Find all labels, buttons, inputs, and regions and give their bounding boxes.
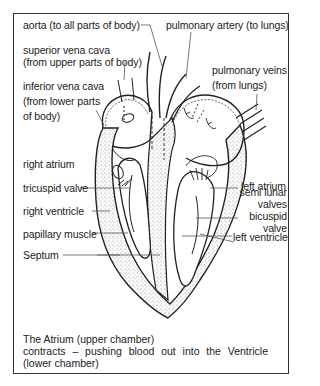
label-line: (from upper parts of body) (23, 56, 142, 68)
label-left-ventricle: left ventricle (233, 231, 288, 243)
label-tricuspid-valve: tricuspid valve (23, 182, 88, 194)
label-line: (from lower parts (23, 95, 104, 107)
superior-vena-cava (118, 78, 135, 124)
label-papillary-muscle: papillary muscle (23, 228, 97, 240)
label-line: valves (238, 198, 287, 210)
label-septum: Septum (23, 249, 59, 261)
label-line: superior vena cava (23, 44, 142, 56)
label-right-atrium: right atrium (23, 158, 74, 170)
label-line: (from lungs) (212, 79, 287, 91)
label-superior-vena-cava: superior vena cava (from upper parts of … (23, 44, 142, 68)
label-line: bicuspid (238, 210, 287, 222)
caption-line-2: contracts – pushing blood out into the V… (23, 345, 268, 357)
label-line: of body) (23, 110, 104, 122)
label-line: semi lunar (238, 186, 287, 198)
label-aorta: aorta (to all parts of body) (23, 19, 140, 31)
label-inferior-vena-cava: inferior vena cava (from lower parts of … (23, 80, 104, 122)
label-line: inferior vena cava (23, 80, 104, 92)
label-right-ventricle: right ventricle (23, 205, 84, 217)
caption-line-3: (lower chamber) (23, 357, 268, 369)
label-line: pulmonary veins (212, 64, 287, 76)
label-pulmonary-artery: pulmonary artery (to lungs) (166, 19, 289, 31)
diagram-caption: The Atrium (upper chamber) contracts – p… (23, 333, 268, 369)
label-pulmonary-veins: pulmonary veins (from lungs) (212, 64, 287, 91)
caption-line-1: The Atrium (upper chamber) (23, 333, 268, 345)
label-semi-lunar-valves: semi lunar valves (238, 186, 287, 210)
septum (148, 118, 175, 300)
